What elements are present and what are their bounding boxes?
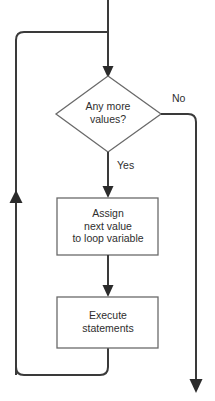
- edge-entry-to-decision: [103, 0, 114, 78]
- node-assign-shape: [57, 198, 158, 255]
- edge-label-yes: Yes: [117, 159, 134, 171]
- edge-assign-to-execute: [103, 255, 114, 297]
- node-decision-shape: [56, 76, 161, 152]
- node-execute-shape: [57, 297, 158, 348]
- edge-no-exit: [161, 114, 203, 393]
- flowchart-graphics: [0, 0, 215, 401]
- edge-label-no: No: [172, 92, 185, 104]
- edge-execute-to-loop: [16, 348, 108, 375]
- flowchart-diagram: Any more values? Assign next value to lo…: [0, 0, 215, 401]
- edge-yes-to-assign: [103, 152, 114, 198]
